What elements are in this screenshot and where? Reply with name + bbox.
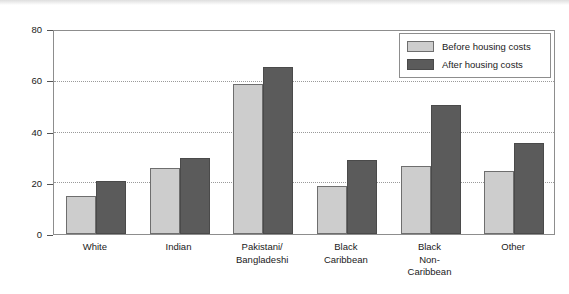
grouped-bar-chart: Great Britain Percentages 020406080 Whit… bbox=[0, 0, 569, 294]
y-tick-label-80: 80 bbox=[12, 25, 42, 35]
gridline-60 bbox=[54, 81, 554, 82]
bar bbox=[233, 84, 263, 234]
bar bbox=[263, 67, 293, 234]
bar bbox=[431, 105, 461, 234]
bar bbox=[180, 158, 210, 234]
bar bbox=[66, 196, 96, 234]
y-tick-label-60: 60 bbox=[12, 76, 42, 86]
x-axis-label: Other bbox=[458, 241, 568, 254]
legend-swatch bbox=[407, 41, 434, 52]
x-label-line: Other bbox=[458, 241, 568, 254]
bar-group bbox=[150, 31, 210, 234]
bar bbox=[514, 143, 544, 234]
x-label-line: Non- bbox=[375, 254, 485, 267]
bar bbox=[484, 171, 514, 234]
gridline-20 bbox=[54, 182, 554, 183]
legend-item: Before housing costs bbox=[407, 39, 544, 54]
y-tick-label-0: 0 bbox=[12, 230, 42, 240]
bar bbox=[317, 186, 347, 234]
legend-swatch bbox=[407, 59, 434, 70]
bar bbox=[401, 166, 431, 235]
bar bbox=[150, 168, 180, 234]
legend-label: After housing costs bbox=[442, 59, 523, 70]
gridline-40 bbox=[54, 132, 554, 133]
bar-group bbox=[317, 31, 377, 234]
legend-item: After housing costs bbox=[407, 57, 544, 72]
x-label-line: Caribbean bbox=[375, 266, 485, 279]
y-tick-label-40: 40 bbox=[12, 128, 42, 138]
bar bbox=[347, 160, 377, 234]
y-tick-mark-0 bbox=[47, 235, 53, 236]
y-tick-label-20: 20 bbox=[12, 179, 42, 189]
bar-group bbox=[66, 31, 126, 234]
chart-legend: Before housing costsAfter housing costs bbox=[399, 33, 551, 78]
legend-label: Before housing costs bbox=[442, 41, 531, 52]
bar bbox=[96, 181, 126, 234]
bar-group bbox=[233, 31, 293, 234]
